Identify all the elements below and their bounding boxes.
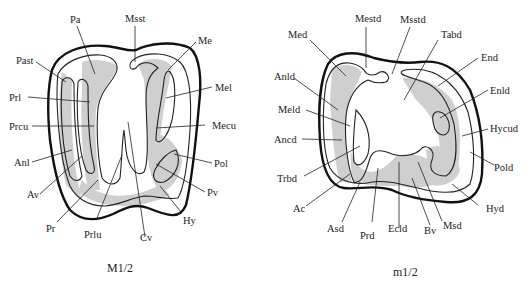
label-Ancd: Ancd — [274, 134, 297, 145]
label-Trbd: Trbd — [277, 173, 298, 184]
label-Hycud: Hycud — [490, 123, 519, 134]
shade-posterior — [148, 134, 183, 192]
label-Me: Me — [198, 35, 212, 46]
label-Pr: Pr — [46, 223, 56, 234]
label-Enld: Enld — [490, 85, 511, 96]
label-Msstd: Msstd — [400, 14, 426, 25]
tooth-diagram-figure: Pa Msst Me Past Prl Mel Prcu Mecu Anl Po… — [0, 0, 530, 285]
label-Pa: Pa — [70, 14, 81, 25]
label-Pv: Pv — [207, 187, 219, 198]
label-Mecu: Mecu — [212, 120, 237, 131]
label-End: End — [481, 52, 499, 63]
label-Med: Med — [288, 29, 308, 40]
label-Bv: Bv — [424, 225, 437, 236]
label-Pol: Pol — [214, 158, 228, 169]
label-Pold: Pold — [494, 162, 514, 173]
lower-molar-diagram: Med Mestd Msstd Tabd End Anld Enld Meld … — [274, 13, 519, 279]
label-Meld: Meld — [278, 104, 301, 115]
lower-trbd-spike — [353, 110, 369, 165]
label-Prd: Prd — [360, 230, 375, 241]
label-Anld: Anld — [274, 71, 296, 82]
label-Av: Av — [27, 189, 40, 200]
label-Anl: Anl — [14, 157, 30, 168]
label-Asd: Asd — [327, 223, 345, 234]
label-Mel: Mel — [215, 82, 232, 93]
label-Cv: Cv — [140, 232, 153, 243]
upper-molar-diagram: Pa Msst Me Past Prl Mel Prcu Mecu Anl Po… — [9, 13, 237, 275]
label-Ac: Ac — [293, 203, 306, 214]
label-Hy: Hy — [183, 215, 197, 226]
caption-upper: M1/2 — [107, 261, 133, 275]
label-Past: Past — [16, 55, 34, 66]
label-Tabd: Tabd — [441, 29, 463, 40]
label-Prl: Prl — [9, 92, 21, 103]
label-Msd: Msd — [443, 220, 462, 231]
label-Hyd: Hyd — [486, 203, 505, 214]
label-Ecld: Ecld — [388, 223, 408, 234]
caption-lower: m1/2 — [393, 265, 418, 279]
label-Msst: Msst — [125, 13, 146, 24]
label-Prcu: Prcu — [9, 121, 29, 132]
label-Prlu: Prlu — [84, 229, 102, 240]
label-Mestd: Mestd — [355, 13, 382, 24]
